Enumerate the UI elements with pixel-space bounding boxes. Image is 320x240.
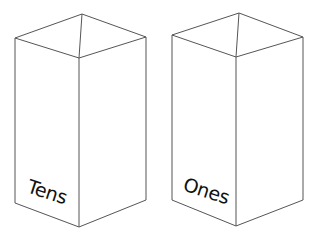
tens-box: Tens xyxy=(15,14,146,227)
boxes-drawing: Tens Ones xyxy=(0,0,320,240)
place-value-boxes-scene: Tens Ones xyxy=(0,0,320,240)
ones-box-right-face xyxy=(236,37,303,226)
tens-box-right-face xyxy=(79,37,146,227)
ones-box: Ones xyxy=(172,13,303,226)
